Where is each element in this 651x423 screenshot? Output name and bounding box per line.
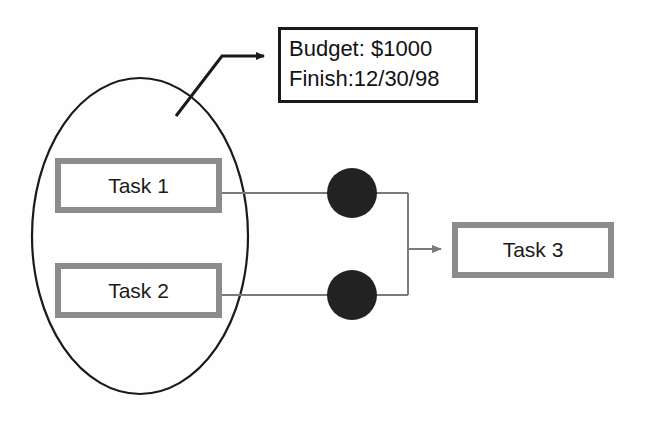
milestone-dot-task-1 [327,168,377,218]
grouping-ellipse [32,78,248,394]
node-task-3[interactable]: Task 3 [455,225,611,275]
milestone-dot-task-2 [327,270,377,320]
connector-layer [222,193,441,295]
diagram-canvas: Task 1 Task 2 Task 3 Budget: $1000 Finis… [0,0,651,423]
node-task-1[interactable]: Task 1 [58,161,219,210]
task-1-label: Task 1 [108,174,169,197]
node-task-2[interactable]: Task 2 [58,266,219,315]
annotation-pointer-arrow [176,56,264,116]
task-2-label: Task 2 [108,279,169,302]
annotation-line-budget: Budget: $1000 [289,36,432,61]
annotation-callout[interactable]: Budget: $1000 Finish:12/30/98 [280,29,477,102]
diagram-svg: Task 1 Task 2 Task 3 Budget: $1000 Finis… [0,0,651,423]
task-3-label: Task 3 [503,238,564,261]
annotation-line-finish: Finish:12/30/98 [289,66,439,91]
